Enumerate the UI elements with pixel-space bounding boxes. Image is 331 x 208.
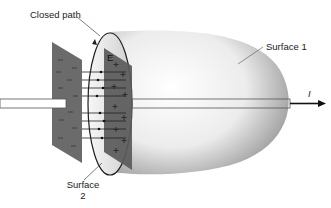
- diagram-graphic: [0, 0, 331, 208]
- right-plate: [104, 48, 132, 170]
- closed-path-label: Closed path: [30, 9, 81, 20]
- surface-2-label-line1: Surface: [63, 179, 103, 190]
- field-label: E: [107, 52, 113, 63]
- surface-1-bulb: [110, 31, 289, 175]
- current-arrow-icon: [318, 100, 326, 107]
- capacitor-ampere-diagram: Closed path Surface 1 Surface 2 I E: [0, 0, 331, 208]
- current-label: I: [308, 88, 311, 99]
- surface-2-label-line2: 2: [63, 190, 103, 201]
- left-wire: [0, 99, 66, 108]
- path-direction-icon: [92, 39, 97, 45]
- surface-1-label: Surface 1: [266, 41, 307, 52]
